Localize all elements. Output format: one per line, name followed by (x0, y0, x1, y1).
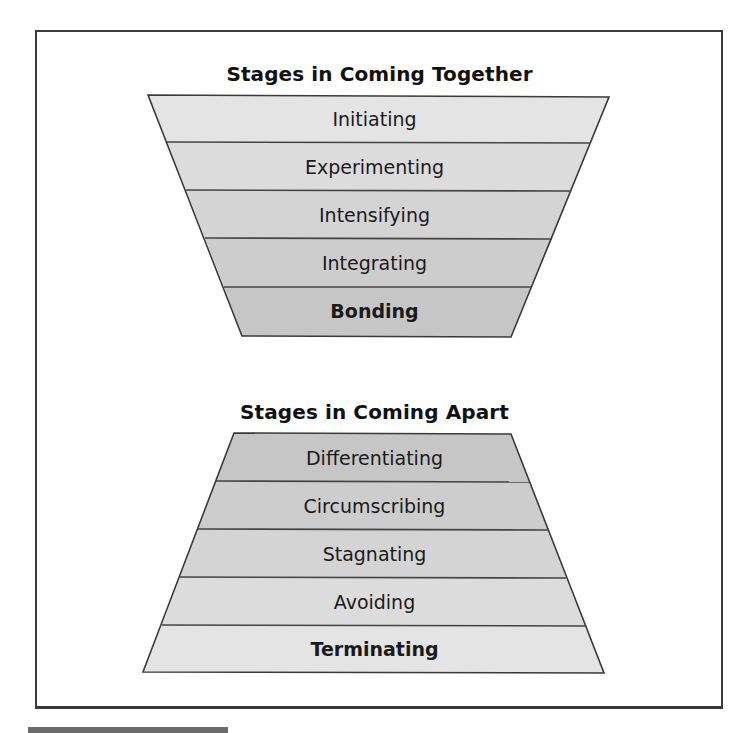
stage-label-avoiding: Avoiding (0, 578, 749, 626)
stage-label-intensifying: Intensifying (0, 191, 749, 239)
coming-together-title: Stages in Coming Together (5, 62, 749, 86)
stage-label-experimenting: Experimenting (0, 143, 749, 191)
coming-apart-title: Stages in Coming Apart (0, 400, 749, 424)
stage-label-differentiating: Differentiating (0, 434, 749, 482)
stage-label-integrating: Integrating (0, 239, 749, 287)
stage-label-initiating: Initiating (0, 95, 749, 143)
stage-label-terminating: Terminating (0, 625, 749, 673)
stage-label-bonding: Bonding (0, 287, 749, 335)
caption-bar (28, 727, 228, 733)
stage-label-circumscribing: Circumscribing (0, 482, 749, 530)
stage-label-stagnating: Stagnating (0, 530, 749, 578)
